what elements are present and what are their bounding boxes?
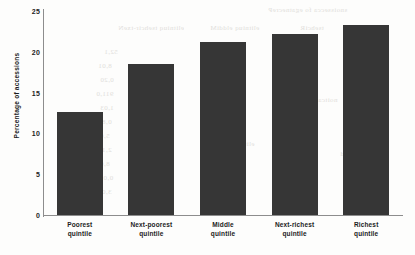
y-axis-tick-label: 25	[6, 8, 40, 15]
bar-chart-figure: snoissecca fo egatnecrePelitniuq tsehcir…	[0, 0, 415, 255]
bar[interactable]	[200, 42, 246, 215]
y-axis-tick-label: 0	[6, 212, 40, 219]
x-axis-category-label-line: Richest	[323, 220, 409, 229]
y-axis-tick-label: 5	[6, 171, 40, 178]
y-axis-tick-label: 10	[6, 130, 40, 137]
y-axis-title: Percentage of accessions	[13, 36, 20, 156]
x-axis-category-label: Richestquintile	[323, 220, 409, 238]
bar[interactable]	[272, 34, 318, 215]
x-axis-category-label-line: quintile	[323, 229, 409, 238]
y-axis-tick-label: 20	[6, 48, 40, 55]
y-axis-ticks: 0510152025	[0, 0, 40, 255]
bar-series	[44, 11, 402, 215]
bar[interactable]	[57, 112, 103, 215]
y-axis-tick-label: 15	[6, 89, 40, 96]
x-axis-line	[43, 215, 403, 216]
bar[interactable]	[343, 25, 389, 215]
bar[interactable]	[128, 64, 174, 215]
x-axis-category-labels: PoorestquintileNext-poorestquintileMiddl…	[44, 220, 402, 250]
